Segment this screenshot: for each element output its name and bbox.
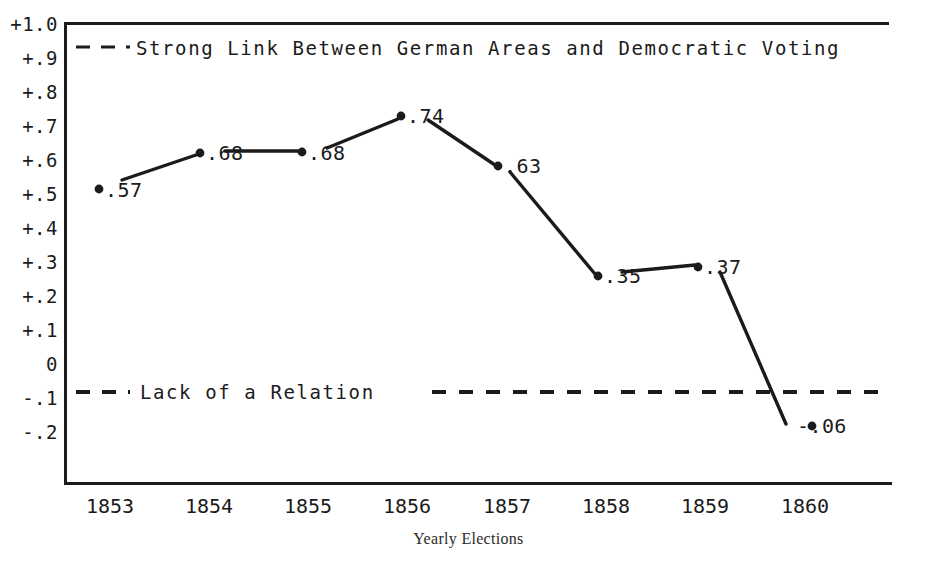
segment-1859-1860 bbox=[720, 272, 786, 424]
point-marker-1858 bbox=[594, 272, 603, 281]
x-tick-1856: 1856 bbox=[383, 494, 431, 518]
x-tick-1855: 1855 bbox=[284, 494, 332, 518]
segment-1853-1854 bbox=[122, 155, 196, 180]
x-axis-tick-labels: 1853 1854 1855 1856 1857 1858 1859 1860 bbox=[0, 494, 937, 524]
x-tick-1857: 1857 bbox=[483, 494, 531, 518]
x-tick-1854: 1854 bbox=[185, 494, 233, 518]
point-label-1858: .35 bbox=[604, 266, 641, 286]
point-label-1857: .63 bbox=[504, 156, 541, 176]
point-marker-1859 bbox=[694, 263, 703, 272]
point-label-1859: .37 bbox=[704, 257, 741, 277]
point-marker-1857 bbox=[494, 162, 503, 171]
x-axis-title: Yearly Elections bbox=[0, 530, 937, 548]
x-tick-1853: 1853 bbox=[86, 494, 134, 518]
point-label-1853: .57 bbox=[105, 180, 142, 200]
point-marker-1854 bbox=[196, 149, 205, 158]
strong-link-annotation-text: Strong Link Between German Areas and Dem… bbox=[136, 39, 840, 58]
point-marker-1856 bbox=[397, 112, 406, 121]
segment-1857-1858 bbox=[510, 172, 595, 274]
point-label-1860: -.06 bbox=[797, 416, 847, 436]
point-label-1855: .68 bbox=[308, 143, 345, 163]
point-marker-1855 bbox=[298, 148, 307, 157]
chart-page: +1.0 +.9 +.8 +.7 +.6 +.5 +.4 +.3 +.2 +.1… bbox=[0, 0, 937, 573]
point-label-1856: .74 bbox=[407, 106, 444, 126]
point-label-1854: .68 bbox=[206, 143, 243, 163]
point-marker-1853 bbox=[95, 185, 104, 194]
x-tick-1860: 1860 bbox=[781, 494, 829, 518]
plot-area bbox=[0, 0, 937, 573]
lack-of-relation-annotation-text: Lack of a Relation bbox=[136, 383, 379, 402]
x-tick-1859: 1859 bbox=[681, 494, 729, 518]
x-tick-1858: 1858 bbox=[582, 494, 630, 518]
